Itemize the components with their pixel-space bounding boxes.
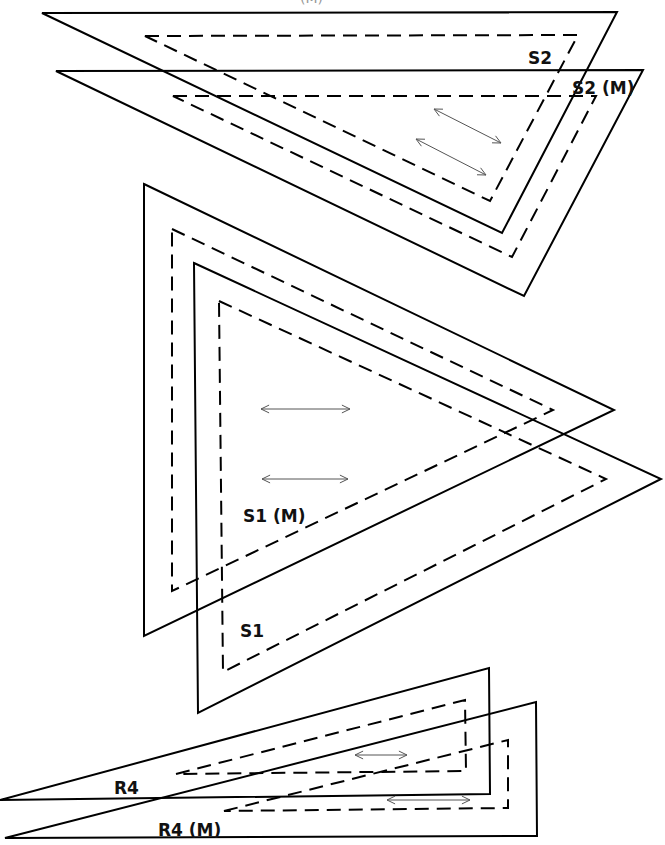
piece-s2 [42, 12, 617, 233]
cut-line [0, 668, 490, 800]
template-shapes [0, 12, 661, 838]
grain-line-arrow [434, 109, 501, 143]
piece-label-s1m: S1 (M) [243, 508, 305, 525]
piece-label-s1: S1 [240, 623, 264, 640]
seam-line [219, 301, 606, 672]
cut-line [144, 184, 614, 636]
piece-label-s2: S2 [528, 50, 552, 67]
cutoff-label: (M) [300, 0, 323, 6]
seam-line [145, 35, 578, 201]
piece-label-r4: R4 [114, 780, 139, 797]
cut-line [194, 263, 661, 713]
cut-line [5, 702, 537, 838]
piece-label-s2m: S2 (M) [572, 80, 634, 97]
template-diagram [0, 0, 665, 845]
seam-line [176, 700, 466, 774]
piece-s1 [194, 263, 661, 713]
piece-label-r4m: R4 (M) [158, 822, 221, 839]
piece-r4m [5, 702, 537, 838]
piece-s1m [144, 184, 614, 636]
piece-r4 [0, 668, 490, 800]
